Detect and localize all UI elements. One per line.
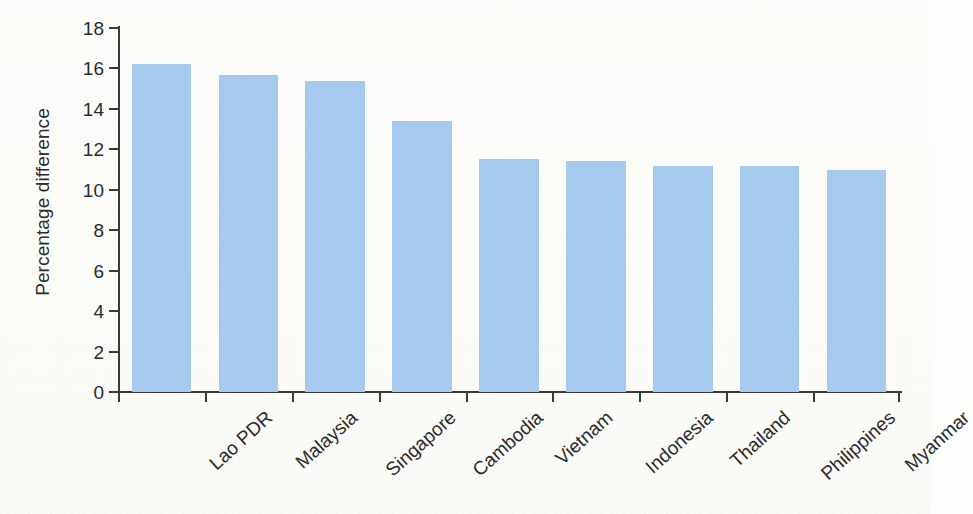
y-axis-tick — [109, 27, 118, 29]
y-axis-tick-label: 16 — [83, 59, 104, 78]
y-axis-tick-label: 4 — [93, 302, 104, 321]
x-axis-tick-label-text: Cambodia — [469, 408, 546, 480]
x-axis-tick-label-text: Malaysia — [292, 408, 360, 472]
x-axis-tick — [118, 392, 120, 402]
x-axis-tick-label-text: Philippines — [818, 408, 899, 484]
plot-area: 024681012141618 — [118, 28, 900, 392]
y-axis-tick-label: 0 — [93, 383, 104, 402]
y-axis-tick-label: 6 — [93, 261, 104, 280]
y-axis-tick-label: 10 — [83, 180, 104, 199]
x-axis-tick — [898, 392, 900, 402]
x-axis-tick-label-text: Myanmar — [902, 408, 973, 475]
x-axis-tick — [726, 392, 728, 402]
x-axis-tick-label-text: Indonesia — [642, 408, 716, 477]
x-axis-tick-label-vietnam: Vietnam — [551, 408, 615, 469]
x-axis-tick-label-indonesia: Indonesia — [642, 408, 716, 477]
x-axis-tick-label-cambodia: Cambodia — [469, 408, 546, 480]
x-axis-tick — [379, 392, 381, 402]
x-axis-tick-label-text: Thailand — [726, 408, 793, 471]
y-axis-tick — [109, 351, 118, 353]
bar-myanmar — [827, 170, 887, 392]
x-axis-tick — [205, 392, 207, 402]
bar-singapore — [305, 81, 365, 392]
x-axis-tick-label-text: Lao PDR — [206, 408, 276, 474]
y-axis-tick-label: 12 — [83, 140, 104, 159]
y-axis-tick — [109, 108, 118, 110]
x-axis-tick — [466, 392, 468, 402]
x-axis-tick-label-thailand: Thailand — [726, 408, 793, 471]
bar-vietnam — [479, 159, 539, 392]
x-axis-tick — [292, 392, 294, 402]
bar-indonesia — [566, 161, 626, 392]
y-axis-tick-label: 14 — [83, 99, 104, 118]
y-axis-tick-label: 18 — [83, 19, 104, 38]
x-axis-tick-label-philippines: Philippines — [818, 408, 899, 484]
x-axis-tick-labels: Lao PDRMalaysiaSingaporeCambodiaVietnamI… — [118, 402, 902, 514]
x-axis-tick-label-myanmar: Myanmar — [902, 408, 973, 475]
bar-thailand — [653, 166, 713, 392]
y-axis-tick — [109, 189, 118, 191]
y-axis-tick — [109, 67, 118, 69]
x-axis-tick — [639, 392, 641, 402]
bar-malaysia — [219, 75, 279, 392]
bar-cambodia — [392, 121, 452, 392]
bar-philippines — [740, 166, 800, 392]
y-axis-tick — [109, 310, 118, 312]
x-axis-tick-label-lao-pdr: Lao PDR — [206, 408, 276, 474]
y-axis-tick — [109, 391, 118, 393]
y-axis-tick-label: 8 — [93, 221, 104, 240]
y-axis-tick — [109, 148, 118, 150]
bar-lao-pdr — [132, 64, 192, 392]
x-axis-tick — [813, 392, 815, 402]
x-axis-tick-label-singapore: Singapore — [382, 408, 459, 480]
x-axis-tick — [552, 392, 554, 402]
y-axis-tick-label: 2 — [93, 342, 104, 361]
x-axis-tick-label-text: Singapore — [382, 408, 459, 480]
y-axis-title: Percentage difference — [28, 12, 58, 392]
y-axis-tick — [109, 229, 118, 231]
x-axis-tick-label-text: Vietnam — [551, 408, 615, 469]
x-axis-tick-label-malaysia: Malaysia — [292, 408, 360, 472]
y-axis-tick — [109, 270, 118, 272]
